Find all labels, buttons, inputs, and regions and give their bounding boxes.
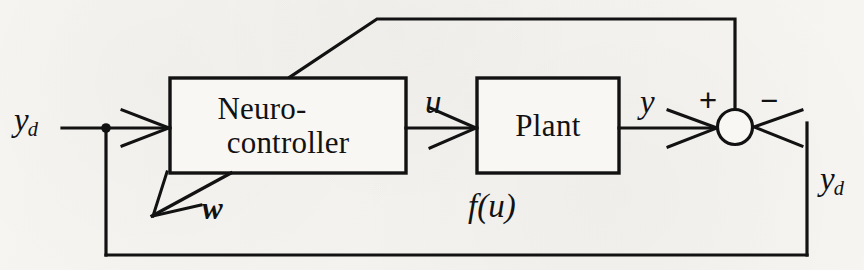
sum-positive-sign-label: +	[699, 85, 717, 116]
summing-junction[interactable]	[718, 110, 753, 145]
plant-function-label: f(u)	[468, 190, 516, 223]
plant-output-label: y	[640, 86, 655, 119]
sum-negative-sign-label: −	[760, 85, 778, 116]
reference-input-label: yd	[14, 104, 38, 140]
feedback-reference-label: yd	[820, 163, 844, 199]
plant-label-line1: Plant	[515, 110, 581, 142]
reference-input-label-base: y	[14, 102, 29, 138]
block-diagram-canvas: Neuro- controller Plant yd u y w f(u) yd…	[0, 0, 864, 270]
wire-layer	[0, 0, 864, 270]
neuro-controller-label-line2: controller	[227, 127, 350, 159]
feedback-reference-label-subscript: d	[834, 177, 844, 199]
neuro-controller-label: Neuro- controller	[170, 78, 406, 173]
weight-signal-label: w	[202, 193, 223, 224]
control-signal-label: u	[425, 86, 442, 119]
plant-label: Plant	[477, 78, 619, 173]
feedback-reference-label-base: y	[820, 161, 835, 197]
neuro-controller-label-line1: Neuro-	[218, 93, 307, 125]
reference-input-label-subscript: d	[28, 118, 38, 140]
